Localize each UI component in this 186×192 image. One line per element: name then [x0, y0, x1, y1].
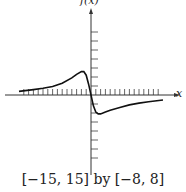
- x-axis-label: x: [176, 87, 182, 100]
- y-axis-arrow-icon: [89, 8, 93, 14]
- y-axis-label: f(x): [80, 0, 99, 7]
- window-caption: [−15, 15] by [−8, 8]: [0, 171, 186, 187]
- chart-plot: [0, 0, 186, 192]
